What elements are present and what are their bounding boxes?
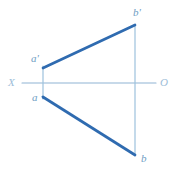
projection-diagram: X O a' a b' b — [0, 0, 188, 173]
vertex-label-b: b — [141, 153, 147, 164]
axis-label-o: O — [160, 77, 168, 88]
vertex-label-a-prime: a' — [31, 53, 39, 64]
segment-a-prime-b-prime — [43, 25, 135, 68]
vertex-label-a: a — [32, 92, 38, 103]
segment-a-b — [43, 97, 135, 155]
axis-label-x: X — [8, 77, 15, 88]
vertex-label-b-prime: b' — [133, 7, 141, 18]
